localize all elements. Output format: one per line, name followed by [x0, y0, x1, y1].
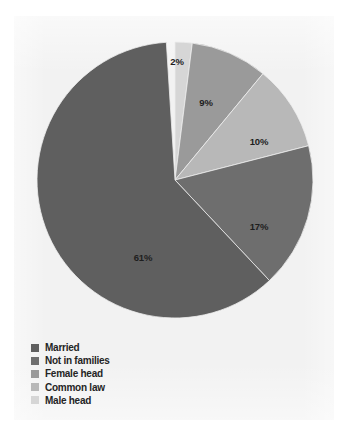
legend-label: Male head: [45, 394, 91, 407]
pie-slice-label-married: 61%: [134, 252, 153, 263]
legend-item-married[interactable]: Married: [31, 341, 211, 354]
figure-root: 2%9%10%17%61% MarriedNot in familiesFema…: [0, 0, 348, 441]
pie-slice-label-female-head: 9%: [199, 97, 213, 108]
legend-item-male-head[interactable]: Male head: [31, 394, 211, 407]
pie-slice-group: [37, 42, 313, 318]
legend-label: Not in families: [45, 354, 110, 367]
legend-item-common-law[interactable]: Common law: [31, 381, 211, 394]
legend-swatch-married: [31, 344, 39, 352]
legend-swatch-common-law: [31, 383, 39, 391]
legend-label: Female head: [45, 367, 103, 380]
legend-label: Married: [45, 341, 79, 354]
legend-item-female-head[interactable]: Female head: [31, 367, 211, 380]
legend-swatch-not-in-families: [31, 357, 39, 365]
pie-slice-label-male-head: 2%: [170, 56, 184, 67]
legend-swatch-male-head: [31, 396, 39, 404]
chart-legend: MarriedNot in familiesFemale headCommon …: [31, 341, 211, 407]
legend-item-not-in-families[interactable]: Not in families: [31, 354, 211, 367]
pie-slice-label-common-law: 10%: [250, 136, 269, 147]
legend-label: Common law: [45, 381, 105, 394]
legend-swatch-female-head: [31, 370, 39, 378]
pie-slice-label-not-in-families: 17%: [250, 221, 269, 232]
